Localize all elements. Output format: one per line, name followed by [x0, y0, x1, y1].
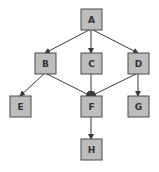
edge-b-to-e: [20, 73, 45, 96]
nodes-layer: ABCDEFGH: [10, 9, 149, 160]
node-label: C: [88, 59, 95, 69]
node-f: F: [81, 96, 102, 117]
node-b: B: [35, 53, 56, 74]
edges-layer: [20, 29, 138, 139]
edge-d-to-f: [91, 73, 138, 96]
node-label: D: [135, 59, 142, 69]
node-label: A: [88, 15, 95, 25]
node-a: A: [81, 9, 102, 30]
node-g: G: [128, 96, 149, 117]
edge-a-to-d: [91, 29, 138, 53]
edge-a-to-b: [45, 29, 91, 53]
edge-b-to-f: [45, 73, 91, 96]
graph-canvas: ABCDEFGH: [0, 0, 159, 172]
node-label: G: [135, 102, 142, 112]
node-c: C: [81, 53, 102, 74]
node-label: B: [42, 59, 49, 69]
node-e: E: [10, 96, 31, 117]
node-d: D: [128, 53, 149, 74]
node-label: F: [88, 102, 94, 112]
node-h: H: [81, 139, 102, 160]
node-label: E: [17, 102, 23, 112]
node-label: H: [88, 145, 96, 155]
